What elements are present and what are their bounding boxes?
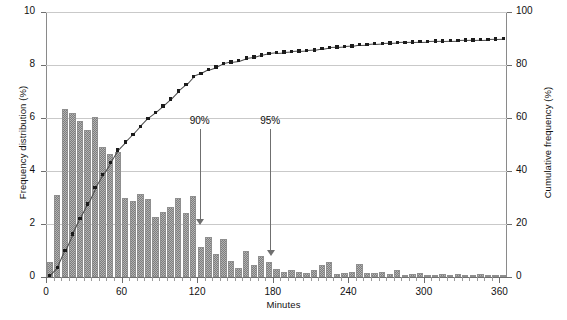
cumulative-marker <box>252 55 255 58</box>
x-axis-minor-tick <box>311 277 312 281</box>
x-axis-major-tick <box>46 277 47 283</box>
x-axis-minor-tick <box>409 277 410 281</box>
cumulative-marker <box>418 40 421 43</box>
x-axis-tick-label: 60 <box>102 286 142 297</box>
x-axis-tick-label: 300 <box>404 286 444 297</box>
annotation-label: 90% <box>180 115 220 126</box>
bar <box>341 273 347 277</box>
bar <box>205 237 211 277</box>
cumulative-marker <box>139 125 142 128</box>
x-axis-tick-label: 0 <box>26 286 66 297</box>
y-axis-right-tick <box>507 12 512 13</box>
bar <box>107 154 113 277</box>
cumulative-marker <box>116 148 119 151</box>
x-axis-minor-tick <box>114 277 115 281</box>
cumulative-marker <box>350 44 353 47</box>
x-axis-major-tick <box>348 277 349 283</box>
y-axis-left-tick-label: 6 <box>5 111 35 122</box>
cumulative-marker <box>124 140 127 143</box>
y-axis-left-tick-label: 2 <box>5 217 35 228</box>
annotation-arrow-line <box>200 129 201 221</box>
x-axis-minor-tick <box>84 277 85 281</box>
bar <box>175 198 181 278</box>
bar <box>235 268 241 277</box>
bar <box>228 261 234 277</box>
y-axis-right-tick-label: 80 <box>516 58 550 69</box>
y-axis-right-tick <box>507 277 512 278</box>
x-axis-minor-tick <box>137 277 138 281</box>
cumulative-marker <box>207 68 210 71</box>
bar <box>470 275 476 277</box>
bar <box>243 251 249 278</box>
bar <box>371 273 377 277</box>
y-axis-right-tick-label: 60 <box>516 111 550 122</box>
bar <box>167 207 173 277</box>
bar <box>334 274 340 277</box>
x-axis-minor-tick <box>484 277 485 281</box>
cumulative-marker <box>154 111 157 114</box>
x-axis-minor-tick <box>91 277 92 281</box>
x-axis-minor-tick <box>54 277 55 281</box>
bar <box>356 264 362 277</box>
cumulative-marker <box>78 217 81 220</box>
cumulative-marker <box>229 60 232 63</box>
bar <box>183 213 189 277</box>
cumulative-marker <box>320 47 323 50</box>
x-axis-minor-tick <box>235 277 236 281</box>
x-axis-tick-label: 240 <box>328 286 368 297</box>
cumulative-marker <box>358 43 361 46</box>
x-axis-minor-tick <box>469 277 470 281</box>
x-axis-title: Minutes <box>0 299 567 310</box>
cumulative-marker <box>486 38 489 41</box>
x-axis-minor-tick <box>371 277 372 281</box>
bar <box>288 270 294 277</box>
cumulative-marker <box>192 75 195 78</box>
bar <box>281 272 287 277</box>
cumulative-marker <box>282 50 285 53</box>
bar <box>115 152 121 277</box>
bar <box>273 269 279 277</box>
cumulative-marker <box>403 41 406 44</box>
bar <box>152 217 158 277</box>
x-axis-minor-tick <box>242 277 243 281</box>
annotation-arrow-line <box>270 129 271 251</box>
bar <box>349 272 355 277</box>
cumulative-marker <box>177 89 180 92</box>
cumulative-marker <box>93 186 96 189</box>
y-axis-left-tick-label: 0 <box>5 270 35 281</box>
cumulative-marker <box>245 56 248 59</box>
cumulative-marker <box>396 41 399 44</box>
bar <box>485 275 491 277</box>
bar <box>160 212 166 277</box>
y-axis-left-tick <box>41 12 46 13</box>
y-axis-right-tick-label: 100 <box>516 5 550 16</box>
x-axis-minor-tick <box>190 277 191 281</box>
y-axis-right-title: Cumulative frequency (%) <box>542 58 553 228</box>
cumulative-marker <box>464 38 467 41</box>
bar <box>492 275 498 277</box>
cumulative-marker <box>471 38 474 41</box>
y-axis-left-tick <box>41 171 46 172</box>
cumulative-marker <box>502 37 505 40</box>
y-axis-left-title: Frequency distribution (%) <box>17 58 28 228</box>
bar <box>409 274 415 277</box>
cumulative-marker <box>63 249 66 252</box>
x-axis-tick-label: 120 <box>177 286 217 297</box>
cumulative-marker <box>297 49 300 52</box>
cumulative-marker <box>56 266 59 269</box>
x-axis-minor-tick <box>386 277 387 281</box>
bar <box>364 273 370 277</box>
x-axis-minor-tick <box>318 277 319 281</box>
x-axis-minor-tick <box>326 277 327 281</box>
right-axis-line <box>506 12 507 278</box>
cumulative-marker <box>71 232 74 235</box>
x-axis-minor-tick <box>439 277 440 281</box>
bar <box>402 275 408 277</box>
y-axis-right-tick <box>507 118 512 119</box>
cumulative-marker <box>426 40 429 43</box>
x-axis-minor-tick <box>288 277 289 281</box>
cumulative-marker <box>146 117 149 120</box>
x-axis-minor-tick <box>212 277 213 281</box>
x-axis-major-tick <box>273 277 274 283</box>
x-axis-minor-tick <box>167 277 168 281</box>
